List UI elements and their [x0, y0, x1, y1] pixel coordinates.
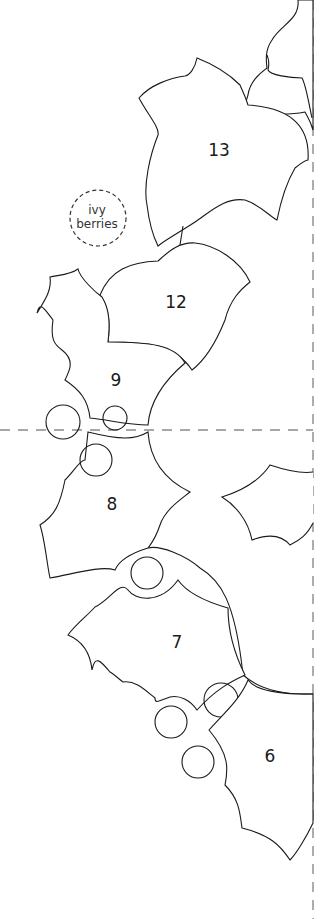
berry-7 — [182, 746, 214, 778]
holly-leaf-6 — [209, 680, 313, 860]
leaf-label-8: 8 — [107, 494, 118, 514]
leaf-label-9: 9 — [111, 370, 122, 390]
ivy-berries-label: ivy berries — [76, 204, 118, 232]
holly-leaf-partial-right — [222, 465, 313, 545]
template-canvas — [0, 0, 320, 919]
leaf-label-6: 6 — [265, 746, 276, 766]
leaf-label-12: 12 — [165, 292, 187, 312]
ivy-label-line1: ivy — [76, 204, 118, 218]
berry-5 — [155, 706, 187, 738]
berry-1 — [46, 405, 80, 439]
leaf-label-7: 7 — [172, 632, 183, 652]
berry-4 — [131, 557, 163, 589]
ivy-label-line2: berries — [76, 218, 118, 232]
leaf-label-13: 13 — [208, 140, 230, 160]
